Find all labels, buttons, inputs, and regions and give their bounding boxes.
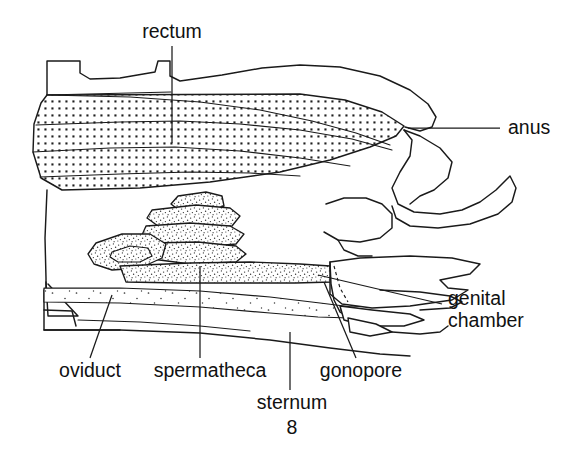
label-spermatheca: spermatheca [154,359,267,381]
label-gonopore: gonopore [320,359,402,381]
label-genital-chamber-line1: genital [448,287,505,309]
rectum-structure [33,94,404,190]
annotation-labels: rectum anus genital chamber oviduct sper… [59,20,550,438]
label-oviduct: oviduct [59,359,121,381]
label-genital-chamber-line2: chamber [448,309,524,331]
label-sternum: sternum [257,391,327,413]
leader-oviduct [90,295,112,358]
anatomical-figure: rectum anus genital chamber oviduct sper… [0,0,564,450]
label-sternum-number: 8 [287,416,298,438]
label-anus: anus [508,116,551,138]
label-rectum: rectum [142,20,202,42]
anatomy-diagram-canvas: rectum anus genital chamber oviduct sper… [0,0,564,450]
spermatheca-structure [88,192,348,283]
oviduct-structure [44,288,376,318]
